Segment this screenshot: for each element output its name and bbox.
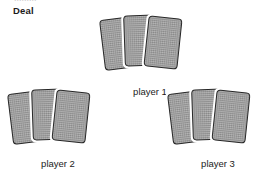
player-label: player 2 [8,158,108,169]
card-fan-player-3 [168,84,266,156]
card-group-player-3: player 3 [168,84,266,176]
cropped-text-remnant-label: ......... [14,0,37,3]
player-label: player 3 [168,158,266,169]
card-back-face [211,89,251,144]
card-group-player-2: player 2 [8,84,108,176]
cropped-text-remnant: ......... [0,0,266,4]
card-fan-player-1 [100,10,200,82]
card-back-face [143,15,183,70]
deal-diagram: ......... Deal player 1 [0,0,266,177]
playing-card [141,13,185,72]
card-fan-player-2 [8,84,108,156]
playing-card [209,87,253,146]
playing-card [49,87,93,146]
deal-step-label: Deal [13,5,34,16]
card-back-face [51,89,91,144]
